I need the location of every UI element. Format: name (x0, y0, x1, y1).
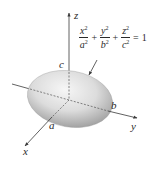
intercept-c-label: c (59, 59, 64, 70)
equation-rhs: 1 (142, 32, 147, 43)
intercept-b-label: b (111, 100, 117, 111)
intercept-a-label: a (49, 120, 55, 131)
equation-term-y: y2 b2 (100, 25, 109, 50)
x-axis-label: x (23, 146, 28, 157)
ellipsoid-equation: x2 a2 + y2 b2 + z2 c2 = 1 (79, 25, 147, 50)
z-axis-label: z (74, 10, 78, 21)
equation-term-z: z2 c2 (121, 25, 130, 50)
y-axis (108, 111, 137, 118)
plus-sign: + (113, 32, 119, 43)
equation-term-x: x2 a2 (79, 25, 88, 50)
plus-sign: + (91, 32, 97, 43)
y-axis-negative (12, 84, 30, 89)
ellipsoid-surface (23, 64, 117, 134)
x-axis (25, 117, 52, 146)
equals-sign: = (133, 32, 139, 43)
y-axis-label: y (131, 121, 136, 132)
equation-pointer-arrow (89, 60, 97, 75)
